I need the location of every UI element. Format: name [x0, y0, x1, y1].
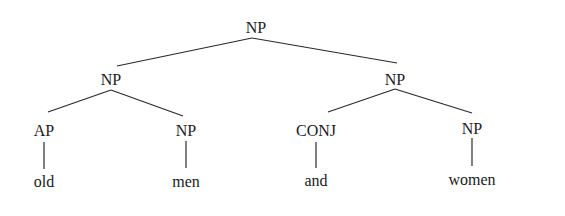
node-np-men: NP [176, 122, 197, 139]
edge-right-npwomen [395, 89, 472, 113]
edge-left-ap [48, 90, 111, 112]
edge-root-right [252, 38, 397, 63]
node-conj: CONJ [296, 122, 336, 139]
leaf-old: old [34, 173, 54, 190]
leaf-men: men [172, 173, 200, 190]
node-ap: AP [34, 122, 55, 139]
leaf-women: women [448, 171, 495, 188]
node-np-left: NP [101, 71, 122, 88]
tree-edges [44, 38, 472, 169]
node-np-women: NP [462, 120, 483, 137]
node-root: NP [246, 19, 267, 36]
leaf-and: and [304, 172, 327, 189]
syntax-tree: NP NP NP AP NP CONJ NP old men and women [0, 0, 565, 216]
edge-root-left [117, 38, 252, 66]
edge-left-npmen [111, 90, 183, 116]
node-np-right: NP [385, 71, 406, 88]
edge-right-conj [328, 89, 395, 112]
